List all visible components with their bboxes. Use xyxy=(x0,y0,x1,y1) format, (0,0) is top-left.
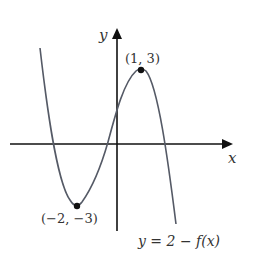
x-axis-label: x xyxy=(228,149,237,167)
x-axis-arrow-icon xyxy=(222,139,233,149)
max-point-label: (1, 3) xyxy=(125,51,160,66)
y-axis-arrow-icon xyxy=(112,28,122,39)
y-axis-label: y xyxy=(98,26,108,44)
curve xyxy=(40,48,176,224)
curve-label: y = 2 − f(x) xyxy=(137,233,220,249)
min-point-marker xyxy=(74,203,80,209)
y-axis xyxy=(112,28,122,231)
max-point-marker xyxy=(138,67,144,73)
graph: y x (1, 3) (−2, −3) y = 2 − f(x) xyxy=(0,0,253,258)
x-axis xyxy=(10,139,233,149)
min-point-label: (−2, −3) xyxy=(41,211,98,226)
